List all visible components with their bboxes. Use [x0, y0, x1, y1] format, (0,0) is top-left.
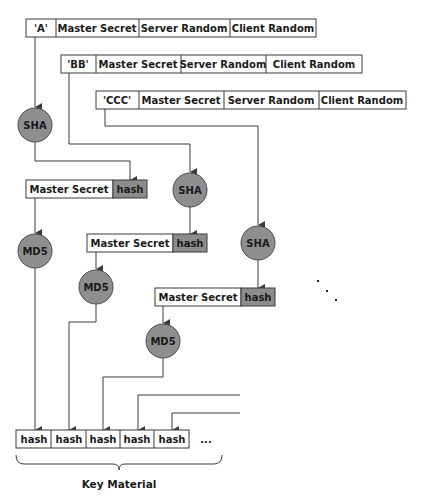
md5-node-3-label: MD5 [150, 336, 175, 347]
md5-node-3: MD5 [146, 324, 180, 358]
key-derivation-diagram: 'A' Master Secret Server Random Client R… [0, 0, 423, 502]
key-material-row: hash hash hash hash hash ... [16, 430, 212, 448]
output-cell-1: hash [21, 434, 48, 445]
md5-input-3-hash: hash [245, 292, 272, 303]
row-ccc-label: 'CCC' [103, 95, 131, 106]
input-row-a: 'A' Master Secret Server Random Client R… [26, 19, 316, 37]
output-cell-5: hash [159, 434, 186, 445]
md5-input-3-master: Master Secret [158, 292, 237, 303]
md5-node-1-label: MD5 [22, 246, 47, 257]
md5-node-1: MD5 [18, 234, 52, 268]
output-cell-2: hash [56, 434, 83, 445]
row-ccc-server-random: Server Random [228, 95, 315, 106]
md5-node-2: MD5 [79, 270, 113, 304]
row-bb-master-secret: Master Secret [98, 59, 177, 70]
md5-input-box-3: Master Secret hash [155, 288, 275, 306]
row-a-label: 'A' [34, 23, 48, 34]
output-cell-3: hash [90, 434, 117, 445]
md5-input-box-2: Master Secret hash [87, 234, 207, 252]
md5-input-box-1: Master Secret hash [26, 180, 147, 198]
sha-node-1: SHA [18, 108, 52, 142]
key-material-brace [16, 455, 222, 470]
row-a-client-random: Client Random [232, 23, 314, 34]
continuation-dots [317, 280, 337, 301]
output-cell-4: hash [124, 434, 151, 445]
row-ccc-master-secret: Master Secret [141, 95, 220, 106]
sha-node-3-label: SHA [246, 238, 270, 249]
row-ccc-client-random: Client Random [321, 95, 403, 106]
row-bb-label: 'BB' [67, 59, 88, 70]
sha-node-3: SHA [241, 226, 275, 260]
key-material-label: Key Material [82, 478, 157, 490]
md5-input-1-hash: hash [117, 184, 144, 195]
input-row-bb: 'BB' Master Secret Server Random Client … [61, 55, 362, 73]
sha-node-2: SHA [173, 173, 207, 207]
md5-input-1-master: Master Secret [29, 184, 108, 195]
row-bb-server-random: Server Random [180, 59, 267, 70]
row-a-server-random: Server Random [141, 23, 228, 34]
row-bb-client-random: Client Random [273, 59, 355, 70]
row-a-master-secret: Master Secret [57, 23, 136, 34]
sha-node-2-label: SHA [178, 185, 202, 196]
input-row-ccc: 'CCC' Master Secret Server Random Client… [96, 91, 406, 109]
sha-node-1-label: SHA [23, 120, 47, 131]
md5-input-2-hash: hash [177, 238, 204, 249]
md5-node-2-label: MD5 [83, 282, 108, 293]
output-ellipsis: ... [200, 434, 211, 445]
md5-input-2-master: Master Secret [90, 238, 169, 249]
